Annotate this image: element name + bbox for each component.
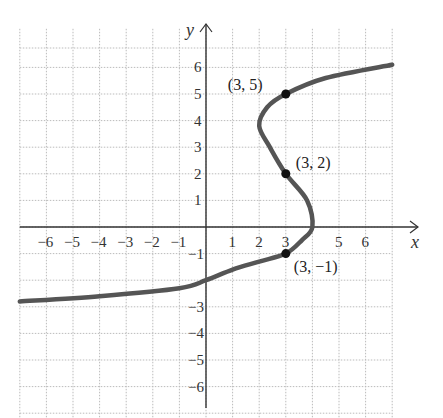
data-point-label: (3, −1) — [294, 258, 338, 276]
x-tick-label: −5 — [64, 234, 80, 250]
x-tick-label: −2 — [144, 234, 160, 250]
data-point — [281, 169, 290, 178]
data-point-label: (3, 5) — [228, 76, 263, 94]
x-tick-label: −3 — [117, 234, 133, 250]
x-tick-label: 6 — [362, 234, 370, 250]
x-tick-label: 1 — [229, 234, 237, 250]
x-tick-label: 5 — [335, 234, 343, 250]
y-tick-label: 3 — [194, 139, 202, 155]
data-point — [281, 249, 290, 258]
y-axis-label: y — [184, 20, 194, 40]
y-tick-label: 1 — [194, 192, 202, 208]
data-point-label: (3, 2) — [296, 154, 331, 172]
y-tick-label: −4 — [188, 325, 204, 341]
y-tick-label: −1 — [188, 246, 204, 262]
y-tick-label: 5 — [194, 86, 202, 102]
x-tick-label: −1 — [170, 234, 186, 250]
x-tick-label: 2 — [255, 234, 263, 250]
y-tick-label: −3 — [188, 299, 204, 315]
x-tick-label: 3 — [282, 234, 290, 250]
y-tick-label: 6 — [194, 59, 202, 75]
y-tick-label: −6 — [188, 379, 204, 395]
x-tick-label: −4 — [91, 234, 107, 250]
x-axis-label: x — [410, 232, 419, 252]
x-tick-label: −6 — [37, 234, 53, 250]
y-tick-label: 2 — [194, 166, 202, 182]
y-tick-label: −5 — [188, 352, 204, 368]
data-point — [281, 90, 290, 99]
y-tick-label: 4 — [194, 113, 202, 129]
graph: xy−6−5−4−3−2−112356654321−1−3−4−5−6(3, 5… — [0, 0, 443, 418]
